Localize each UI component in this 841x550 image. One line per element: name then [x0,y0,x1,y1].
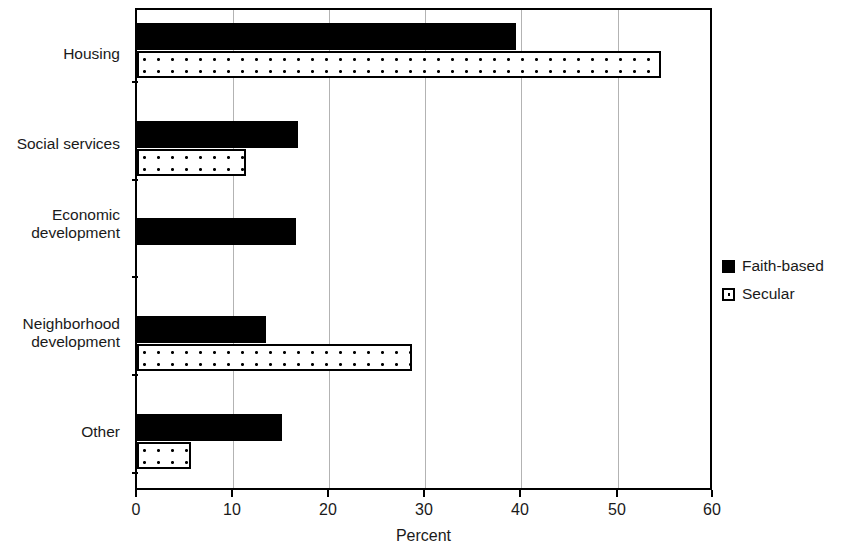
bar-neighborhood-development-faith-based [137,316,266,343]
bar-other-faith-based [137,414,282,441]
xtick-label-10: 10 [212,500,252,519]
category-label-economic-development: Economic development [0,206,120,242]
xtick-label-20: 20 [308,500,348,519]
xtick-60 [711,490,713,497]
bar-housing-secular [137,51,661,78]
bar-group-other [137,414,710,470]
category-label-neighborhood-development: Neighborhood development [0,315,120,351]
legend-item-faith-based: Faith-based [722,252,841,280]
xtick-20 [327,490,329,497]
bar-other-secular [137,442,191,469]
legend-swatch-secular-icon [722,288,735,301]
x-axis-title: Percent [135,527,712,545]
category-tick-neighborhood-development [132,374,138,376]
bar-group-social-services [137,121,710,177]
bar-group-housing [137,23,710,79]
bar-economic-development-faith-based [137,218,296,245]
xtick-50 [616,490,618,497]
xtick-label-40: 40 [500,500,540,519]
legend: Faith-based Secular [722,252,841,308]
plot-area [135,8,712,490]
category-label-housing: Housing [0,45,120,63]
legend-label-faith-based: Faith-based [742,257,824,275]
legend-swatch-faith-based-icon [722,260,735,273]
xtick-10 [231,490,233,497]
xtick-0 [135,490,137,497]
bar-social-services-secular [137,149,246,176]
xtick-30 [423,490,425,497]
bar-social-services-faith-based [137,121,298,148]
xtick-label-0: 0 [116,500,156,519]
xtick-label-30: 30 [404,500,444,519]
category-label-social-services: Social services [0,135,120,153]
category-tick-housing [132,81,138,83]
category-tick-economic-development [132,276,138,278]
category-tick-other [132,472,138,474]
legend-item-secular: Secular [722,280,841,308]
xtick-40 [519,490,521,497]
bar-housing-faith-based [137,23,516,50]
legend-label-secular: Secular [742,285,795,303]
bar-neighborhood-development-secular [137,344,412,371]
category-axis-labels: Housing Social services Economic develop… [0,0,126,550]
xtick-label-50: 50 [597,500,637,519]
category-label-other: Other [0,423,120,441]
bar-group-economic-development [137,218,710,274]
xtick-label-60: 60 [692,500,732,519]
category-tick-social-services [132,179,138,181]
bar-chart: Housing Social services Economic develop… [0,0,841,550]
bar-group-neighborhood-development [137,316,710,372]
